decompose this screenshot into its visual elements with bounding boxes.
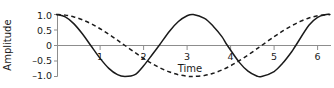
- x-axis-title: Time: [177, 63, 202, 74]
- y-tick-label: 0.5: [37, 25, 52, 36]
- y-axis-title: Amplitude: [2, 19, 13, 70]
- amplitude-vs-time-plot: Amplitude 1.0 0.5 0 –0.5 –1.0: [0, 0, 334, 88]
- y-tick-marks: [54, 15, 58, 77]
- chart-figure: Amplitude 1.0 0.5 0 –0.5 –1.0: [0, 0, 334, 88]
- x-tick-label: 2: [141, 51, 147, 62]
- x-tick-label: 6: [315, 51, 321, 62]
- y-tick-label: 1.0: [37, 10, 52, 21]
- x-tick-label: 5: [271, 51, 277, 62]
- y-tick-label: –1.0: [32, 70, 52, 81]
- y-tick-labels: 1.0 0.5 0 –0.5 –1.0: [32, 10, 52, 82]
- x-tick-label: 3: [184, 51, 190, 62]
- x-tick-labels: 1 2 3 4 5 6: [97, 51, 321, 62]
- x-tick-marks: [100, 46, 318, 51]
- y-tick-label: 0: [46, 40, 52, 51]
- y-tick-label: –0.5: [32, 55, 52, 66]
